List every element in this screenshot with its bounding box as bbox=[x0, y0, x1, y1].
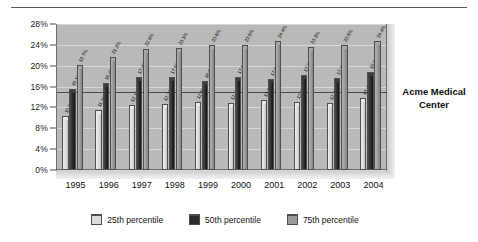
bar-value-label: 23.3% bbox=[309, 30, 321, 45]
legend-label: 75th percentile bbox=[303, 215, 359, 225]
y-axis-tick-label: 8% bbox=[35, 123, 48, 133]
bar-50th-percentile[interactable] bbox=[235, 79, 241, 170]
legend-item[interactable]: 25th percentile bbox=[91, 215, 163, 225]
bar-value-label: 22.8% bbox=[143, 32, 155, 47]
bar-top-face bbox=[294, 102, 300, 106]
bar-75th-percentile[interactable] bbox=[308, 49, 314, 170]
annotation-line-2: Center bbox=[392, 99, 476, 112]
gridline bbox=[57, 170, 386, 171]
legend-swatch bbox=[287, 215, 298, 225]
bar-25th-percentile[interactable] bbox=[129, 107, 135, 170]
x-axis-tick-label: 2001 bbox=[264, 180, 284, 190]
legend-item[interactable]: 75th percentile bbox=[287, 215, 359, 225]
bar-25th-percentile[interactable] bbox=[195, 104, 201, 170]
bar-group: 12.6%16.6%23.6% bbox=[195, 24, 215, 170]
bar-25th-percentile[interactable] bbox=[261, 102, 267, 170]
bar-25th-percentile[interactable] bbox=[327, 105, 333, 170]
legend-label: 50th percentile bbox=[205, 215, 261, 225]
bar-top-face bbox=[143, 49, 149, 53]
bar-group: 10.0%15.1%19.7% bbox=[62, 24, 82, 170]
bar-top-face bbox=[77, 65, 83, 69]
x-axis-tick-label: 2004 bbox=[363, 180, 383, 190]
bar-top-face bbox=[110, 57, 116, 61]
bar-75th-percentile[interactable] bbox=[209, 47, 215, 170]
x-axis: 1995199619971998199920002001200220032004 bbox=[56, 180, 394, 196]
bar-top-face bbox=[103, 83, 109, 87]
y-axis: 0%4%8%12%16%20%24%28% bbox=[18, 24, 56, 172]
bar-75th-percentile[interactable] bbox=[77, 67, 83, 170]
bar-75th-percentile[interactable] bbox=[374, 43, 380, 170]
bar-25th-percentile[interactable] bbox=[95, 112, 101, 170]
bar-value-label: 21.2% bbox=[110, 41, 122, 56]
bar-top-face bbox=[95, 110, 101, 114]
header-divider bbox=[11, 7, 467, 8]
y-axis-tick-label: 4% bbox=[35, 144, 48, 154]
bar-group: 11.1%16.4%21.2% bbox=[95, 24, 115, 170]
bar-top-face bbox=[301, 75, 307, 79]
bar-top-face bbox=[334, 78, 340, 82]
bar-25th-percentile[interactable] bbox=[228, 105, 234, 170]
x-axis-tick-label: 1997 bbox=[132, 180, 152, 190]
bar-value-label: 19.7% bbox=[77, 48, 89, 63]
x-axis-tick-label: 1999 bbox=[198, 180, 218, 190]
bar-group: 12.2%17.5%23.1% bbox=[162, 24, 182, 170]
bar-group: 12.1%17.4%22.8% bbox=[129, 24, 149, 170]
bar-75th-percentile[interactable] bbox=[341, 47, 347, 170]
bar-75th-percentile[interactable] bbox=[275, 43, 281, 170]
bar-75th-percentile[interactable] bbox=[242, 47, 248, 170]
bar-top-face bbox=[341, 45, 347, 49]
bar-group: 13.4%18.5%24.4% bbox=[360, 24, 380, 170]
legend-swatch bbox=[91, 215, 102, 225]
bar-top-face bbox=[360, 98, 366, 102]
bar-25th-percentile[interactable] bbox=[360, 100, 366, 170]
bar-top-face bbox=[162, 104, 168, 108]
legend-item[interactable]: 50th percentile bbox=[189, 215, 261, 225]
legend-swatch bbox=[189, 215, 200, 225]
x-axis-tick-label: 2002 bbox=[297, 180, 317, 190]
bar-group: 12.4%17.2%23.5% bbox=[327, 24, 347, 170]
plot-floor bbox=[56, 170, 394, 179]
bar-50th-percentile[interactable] bbox=[169, 79, 175, 170]
bar-top-face bbox=[136, 77, 142, 81]
bar-value-label: 23.1% bbox=[176, 31, 188, 46]
y-axis-tick-label: 20% bbox=[30, 61, 48, 71]
bar-group: 12.4%17.5%23.6% bbox=[228, 24, 248, 170]
y-axis-tick-label: 16% bbox=[30, 82, 48, 92]
bar-50th-percentile[interactable] bbox=[69, 91, 75, 170]
bar-group: 12.6%17.8%23.3% bbox=[294, 24, 314, 170]
bar-25th-percentile[interactable] bbox=[294, 104, 300, 170]
bar-top-face bbox=[209, 45, 215, 49]
bar-top-face bbox=[268, 79, 274, 83]
bar-50th-percentile[interactable] bbox=[103, 85, 109, 171]
bar-75th-percentile[interactable] bbox=[143, 51, 149, 170]
bar-value-label: 23.5% bbox=[342, 29, 354, 44]
series-annotation: Acme Medical Center bbox=[392, 86, 476, 112]
bar-50th-percentile[interactable] bbox=[301, 77, 307, 170]
bar-top-face bbox=[202, 81, 208, 85]
bar-50th-percentile[interactable] bbox=[202, 83, 208, 170]
bar-top-face bbox=[129, 105, 135, 109]
bar-value-label: 23.6% bbox=[243, 28, 255, 43]
y-axis-tick-label: 24% bbox=[30, 40, 48, 50]
x-axis-tick-label: 2000 bbox=[231, 180, 251, 190]
chart-page: 0%4%8%12%16%20%24%28% 10.0%15.1%19.7%11.… bbox=[0, 0, 478, 242]
bar-top-face bbox=[327, 103, 333, 107]
bar-series-container: 10.0%15.1%19.7%11.1%16.4%21.2%12.1%17.4%… bbox=[56, 24, 387, 170]
annotation-line-1: Acme Medical bbox=[392, 86, 476, 99]
bar-50th-percentile[interactable] bbox=[334, 80, 340, 170]
bar-25th-percentile[interactable] bbox=[162, 106, 168, 170]
bar-top-face bbox=[367, 72, 373, 76]
bar-50th-percentile[interactable] bbox=[268, 81, 274, 170]
bar-top-face bbox=[228, 103, 234, 107]
y-axis-tick-label: 12% bbox=[30, 102, 48, 112]
bar-50th-percentile[interactable] bbox=[367, 74, 373, 170]
bar-75th-percentile[interactable] bbox=[176, 50, 182, 170]
y-axis-tick-label: 0% bbox=[35, 165, 48, 175]
bar-value-label: 24.4% bbox=[375, 24, 387, 39]
bar-group: 13.1%17.0%24.4% bbox=[261, 24, 281, 170]
x-axis-tick-label: 1998 bbox=[165, 180, 185, 190]
bar-25th-percentile[interactable] bbox=[62, 118, 68, 170]
bar-50th-percentile[interactable] bbox=[136, 79, 142, 170]
bar-top-face bbox=[69, 89, 75, 93]
bar-75th-percentile[interactable] bbox=[110, 59, 116, 170]
